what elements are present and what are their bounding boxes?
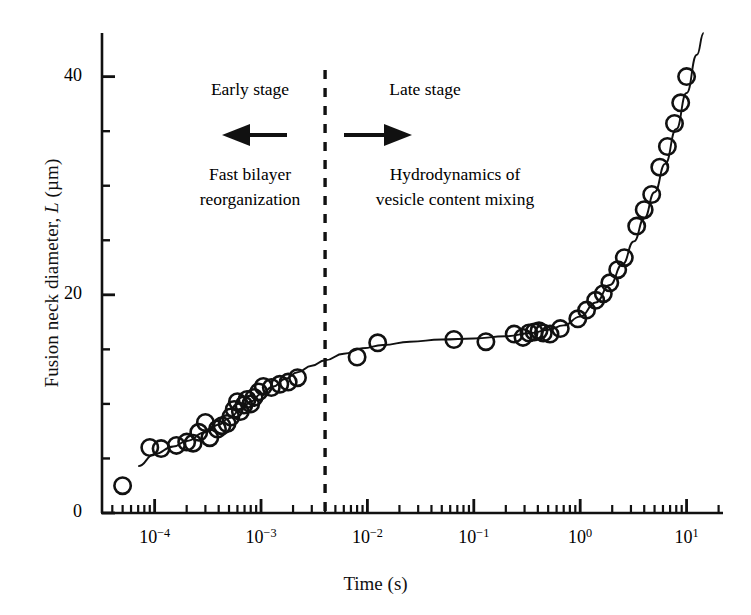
early-stage-title: Early stage bbox=[160, 78, 340, 101]
early-stage-caption-line2: reorganization bbox=[160, 188, 340, 211]
x-axis-tick-label: 10−2 bbox=[332, 527, 402, 548]
right-arrow-icon bbox=[344, 124, 412, 146]
data-point-marker bbox=[652, 159, 668, 175]
y-axis-label-suffix: (µm) bbox=[41, 159, 62, 203]
x-axis-tick-label: 100 bbox=[545, 527, 615, 548]
y-axis-tick-label: 20 bbox=[20, 283, 82, 304]
late-stage-caption-line1: Hydrodynamics of bbox=[340, 163, 570, 186]
late-stage-title: Late stage bbox=[345, 78, 505, 101]
early-stage-caption-line1: Fast bilayer bbox=[160, 163, 340, 186]
late-stage-caption-line2: vesicle content mixing bbox=[340, 188, 570, 211]
y-axis-tick-label: 40 bbox=[20, 65, 82, 86]
y-axis-label-symbol: L bbox=[41, 202, 62, 213]
x-axis-tick-label: 10−1 bbox=[439, 527, 509, 548]
data-point-marker bbox=[349, 349, 365, 365]
x-axis-label: Time (s) bbox=[0, 573, 751, 595]
figure-container: Fusion neck diameter, L (µm) Time (s) 02… bbox=[0, 0, 751, 615]
data-point-marker bbox=[636, 202, 652, 218]
data-point-marker bbox=[114, 478, 130, 494]
left-arrow-icon bbox=[222, 124, 287, 146]
data-point-marker bbox=[673, 95, 689, 111]
data-point-marker bbox=[678, 68, 694, 84]
x-axis-tick-label: 10−3 bbox=[226, 527, 296, 548]
data-point-marker bbox=[629, 218, 645, 234]
data-point-marker bbox=[370, 335, 386, 351]
y-axis-label: Fusion neck diameter, L (µm) bbox=[41, 43, 63, 503]
data-point-marker bbox=[659, 138, 675, 154]
y-axis-tick-label: 0 bbox=[20, 501, 82, 522]
y-axis-ticks bbox=[102, 77, 115, 513]
data-point-marker bbox=[478, 334, 494, 350]
x-axis-ticks bbox=[112, 499, 718, 513]
stage-arrows bbox=[222, 124, 412, 146]
x-axis-tick-label: 101 bbox=[652, 527, 722, 548]
x-axis-tick-label: 10−4 bbox=[120, 527, 190, 548]
